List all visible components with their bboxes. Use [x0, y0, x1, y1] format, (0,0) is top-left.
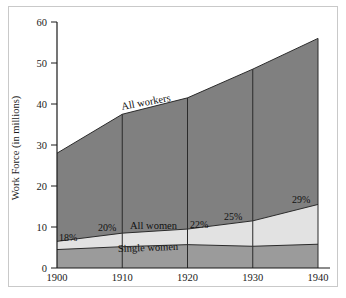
y-tick-label-20: 20 — [37, 181, 48, 192]
series-label-single-women: Single women — [118, 241, 179, 254]
work-force-area-chart: 60 50 40 30 20 10 0 1900 1910 1920 1930 … — [0, 0, 346, 298]
pct-annotation-1910: 20% — [98, 222, 116, 233]
y-tick-label-50: 50 — [37, 58, 48, 69]
x-tick-label-1900: 1900 — [47, 272, 68, 283]
y-tick-label-60: 60 — [37, 17, 48, 28]
y-tick-label-30: 30 — [37, 140, 48, 151]
y-axis-ticks — [51, 22, 57, 268]
pct-annotation-1930: 25% — [224, 211, 242, 222]
y-tick-label-40: 40 — [37, 99, 48, 110]
chart-figure: 60 50 40 30 20 10 0 1900 1910 1920 1930 … — [0, 0, 346, 298]
y-axis-title: Work Force (in millions) — [10, 95, 22, 200]
pct-annotation-1900: 18% — [59, 232, 77, 243]
pct-annotation-1940: 29% — [292, 194, 310, 205]
y-tick-label-10: 10 — [37, 222, 48, 233]
x-tick-label-1930: 1930 — [242, 272, 263, 283]
x-tick-label-1940: 1940 — [308, 272, 329, 283]
x-tick-label-1920: 1920 — [177, 272, 198, 283]
pct-annotation-1920: 22% — [190, 219, 208, 230]
series-label-all-women: All women — [130, 220, 178, 231]
x-tick-label-1910: 1910 — [112, 272, 133, 283]
